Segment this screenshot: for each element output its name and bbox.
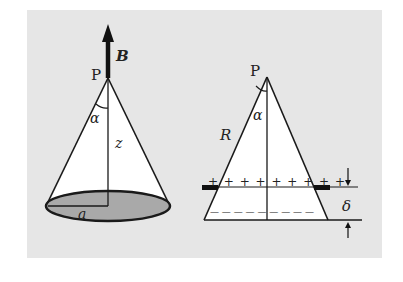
left-cone-diagram: P B α z a bbox=[46, 24, 170, 222]
figure-canvas: P B α z a + + + + + + + + + — — — — — — … bbox=[0, 0, 403, 282]
field-label: B bbox=[115, 47, 129, 65]
right-section-diagram: + + + + + + + + + — — — — — — — — — P α … bbox=[202, 62, 362, 238]
thickness-label: δ bbox=[342, 197, 351, 215]
negative-charges: — — — — — — — — — bbox=[210, 207, 314, 217]
radius-label: a bbox=[78, 206, 86, 222]
apex-label: P bbox=[91, 66, 101, 84]
height-label: z bbox=[114, 135, 123, 151]
angle-label: α bbox=[90, 110, 100, 126]
b-field-arrowhead-icon bbox=[102, 24, 114, 42]
angle-label: α bbox=[253, 107, 263, 123]
positive-charges: + + + + + + + + + bbox=[208, 175, 346, 189]
section-body bbox=[204, 77, 328, 220]
slant-label: R bbox=[219, 126, 231, 144]
arrow-up-icon bbox=[345, 222, 351, 228]
apex-label: P bbox=[250, 62, 260, 80]
